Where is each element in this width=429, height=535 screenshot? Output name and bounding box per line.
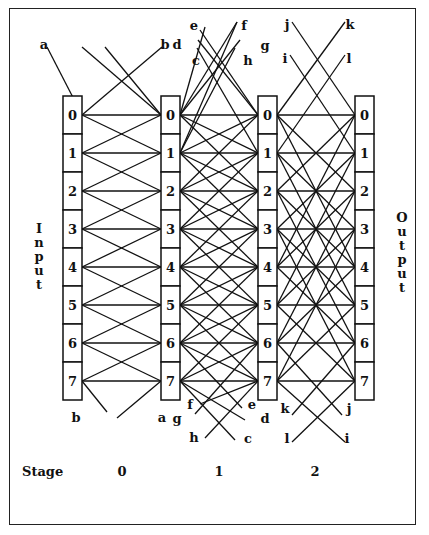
node-label: 3: [166, 222, 175, 237]
node-label: 5: [360, 298, 369, 313]
output-label: p: [397, 252, 406, 267]
node-label: 2: [166, 184, 175, 199]
node-label: 3: [360, 222, 369, 237]
output-label: u: [397, 224, 406, 239]
wrap-label: c: [192, 53, 200, 68]
wrap-label: i: [283, 51, 288, 66]
wrap-label: k: [345, 17, 355, 32]
wrap-label: b: [160, 37, 169, 52]
wrap-label: c: [244, 431, 252, 446]
node-label: 5: [263, 298, 272, 313]
wrap-label: k: [280, 401, 290, 416]
node-label: 4: [68, 260, 77, 275]
input-label: I: [36, 221, 42, 236]
wrap-label: d: [172, 37, 181, 52]
wrap-label: e: [248, 397, 256, 412]
node-label: 4: [263, 260, 272, 275]
output-label: t: [399, 280, 405, 295]
wrap-label: h: [243, 53, 253, 68]
node-label: 2: [360, 184, 369, 199]
stage-number: 1: [214, 464, 223, 479]
stage-label: Stage: [22, 464, 63, 479]
node-column-2: 01234567: [258, 96, 277, 400]
wrap-label: g: [172, 411, 181, 426]
wrap-label: j: [346, 401, 352, 416]
node-label: 3: [263, 222, 272, 237]
node-label: 1: [263, 146, 272, 161]
wrap-label: h: [189, 430, 199, 445]
wrap-label: l: [285, 431, 290, 446]
stage-number: 0: [117, 464, 126, 479]
wrap-label: a: [40, 37, 49, 52]
node-label: 1: [360, 146, 369, 161]
node-label: 5: [166, 298, 175, 313]
stage-number: 2: [310, 464, 319, 479]
node-label: 6: [68, 336, 77, 351]
wrap-label: i: [345, 431, 350, 446]
wrap-label: f: [187, 397, 194, 412]
node-label: 6: [166, 336, 175, 351]
node-label: 2: [68, 184, 77, 199]
node-label: 0: [263, 108, 272, 123]
wrap-label: a: [158, 410, 167, 425]
node-label: 2: [263, 184, 272, 199]
wrap-label: e: [190, 18, 198, 33]
output-label: t: [399, 238, 405, 253]
node-column-1: 01234567: [161, 96, 180, 400]
wrap-label: g: [260, 38, 269, 53]
node-label: 5: [68, 298, 77, 313]
node-label: 7: [166, 374, 175, 389]
node-label: 4: [360, 260, 369, 275]
node-column-0: 01234567: [63, 96, 82, 400]
connection-lines: [47, 22, 355, 442]
node-label: 6: [360, 336, 369, 351]
node-label: 4: [166, 260, 175, 275]
wrap-label: l: [347, 51, 352, 66]
node-label: 3: [68, 222, 77, 237]
node-label: 1: [166, 146, 175, 161]
node-label: 7: [68, 374, 77, 389]
node-label: 0: [68, 108, 77, 123]
node-label: 0: [166, 108, 175, 123]
input-label: t: [36, 277, 42, 292]
network-diagram: 01234567012345670123456701234567abbacdef…: [0, 0, 429, 535]
wrap-label: f: [241, 18, 248, 33]
wrap-label: b: [71, 410, 80, 425]
node-label: 6: [263, 336, 272, 351]
input-label: p: [34, 249, 43, 264]
node-label: 0: [360, 108, 369, 123]
input-label: u: [34, 263, 43, 278]
node-column-3: 01234567: [355, 96, 374, 400]
output-label: u: [397, 266, 406, 281]
input-label: n: [34, 235, 44, 250]
wrap-label: d: [260, 411, 269, 426]
node-label: 7: [360, 374, 369, 389]
node-label: 1: [68, 146, 77, 161]
output-label: O: [396, 210, 407, 225]
wrap-label: j: [284, 17, 290, 32]
node-label: 7: [263, 374, 272, 389]
